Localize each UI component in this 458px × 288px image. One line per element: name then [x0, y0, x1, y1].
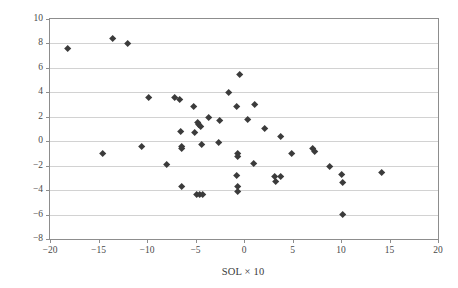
x-axis-tick — [196, 239, 197, 243]
x-axis-tick-label: 10 — [336, 246, 346, 256]
y-axis-tick-label: 8 — [38, 39, 43, 49]
data-point-marker — [261, 125, 269, 133]
data-point-marker — [326, 162, 334, 170]
data-point-marker — [272, 178, 280, 186]
data-point-marker — [163, 161, 171, 169]
data-point-marker — [205, 114, 213, 122]
x-axis-tick-label: 5 — [290, 246, 295, 256]
scatter-chart-figure: −8−6−4−20246810−20−15−10−505101520 SOL ×… — [0, 0, 458, 288]
data-point-marker — [191, 129, 199, 137]
x-axis-tick-label: −20 — [43, 246, 58, 256]
data-point-marker — [176, 96, 184, 104]
x-axis-tick — [50, 239, 51, 243]
y-axis-tick — [46, 190, 50, 191]
data-point-marker — [339, 211, 347, 219]
gridline-horizontal — [50, 141, 438, 142]
y-axis-tick-label: 0 — [38, 136, 43, 146]
x-axis-tick-label: 15 — [385, 246, 395, 256]
data-point-marker — [277, 133, 285, 141]
gridline-horizontal — [50, 190, 438, 191]
y-axis-tick — [46, 68, 50, 69]
data-point-marker — [124, 40, 132, 48]
y-axis-tick-label: 4 — [38, 88, 43, 98]
data-point-marker — [225, 89, 233, 97]
data-point-marker — [177, 128, 185, 136]
x-axis-tick — [341, 239, 342, 243]
data-point-marker — [190, 103, 198, 111]
x-axis-tick — [438, 239, 439, 243]
data-point-marker — [64, 45, 72, 53]
y-axis-tick — [46, 215, 50, 216]
data-point-marker — [233, 172, 241, 180]
x-axis-tick — [244, 239, 245, 243]
data-point-marker — [109, 35, 117, 43]
data-point-marker — [138, 143, 146, 151]
data-point-marker — [198, 141, 206, 149]
data-point-marker — [145, 94, 153, 102]
x-axis-tick — [147, 239, 148, 243]
x-axis-title: SOL × 10 — [49, 266, 437, 277]
y-axis-tick-label: −4 — [33, 185, 43, 195]
y-axis-tick — [46, 166, 50, 167]
data-point-marker — [251, 101, 259, 109]
y-axis-tick-label: −2 — [33, 161, 43, 171]
y-axis-tick — [46, 141, 50, 142]
data-point-marker — [99, 150, 107, 158]
x-axis-tick — [390, 239, 391, 243]
y-axis-tick-label: 6 — [38, 63, 43, 73]
x-axis-tick — [293, 239, 294, 243]
data-point-marker — [233, 103, 241, 111]
y-axis-tick-label: −8 — [33, 234, 43, 244]
x-axis-tick-label: −5 — [190, 246, 200, 256]
gridline-horizontal — [50, 68, 438, 69]
x-axis-tick-label: 0 — [242, 246, 247, 256]
gridline-horizontal — [50, 215, 438, 216]
y-axis-tick-label: 10 — [34, 14, 44, 24]
data-point-marker — [215, 117, 223, 125]
data-point-marker — [378, 169, 386, 177]
data-point-marker — [338, 171, 346, 179]
x-axis-tick-label: −10 — [140, 246, 155, 256]
plot-area: −8−6−4−20246810−20−15−10−505101520 — [49, 18, 439, 240]
x-axis-tick-label: −15 — [91, 246, 106, 256]
gridline-horizontal — [50, 92, 438, 93]
y-axis-tick — [46, 43, 50, 44]
y-axis-tick-label: 2 — [38, 112, 43, 122]
gridline-horizontal — [50, 166, 438, 167]
x-axis-tick-label: 20 — [433, 246, 443, 256]
y-axis-tick — [46, 92, 50, 93]
gridline-horizontal — [50, 43, 438, 44]
data-point-marker — [339, 179, 347, 187]
y-axis-tick — [46, 117, 50, 118]
y-axis-tick-label: −6 — [33, 210, 43, 220]
data-point-marker — [236, 71, 244, 79]
x-axis-tick — [99, 239, 100, 243]
y-axis-tick — [46, 19, 50, 20]
data-point-marker — [288, 150, 296, 158]
